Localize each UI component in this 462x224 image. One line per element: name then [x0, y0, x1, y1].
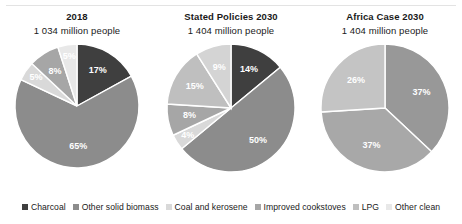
- legend-label: Coal and kerosene: [175, 202, 248, 212]
- pie-panel-1: 20181 034 million people17%65%5%8%5%: [0, 10, 154, 192]
- legend-item[interactable]: Other clean: [386, 202, 440, 212]
- pie-graphic: 37%37%26%: [319, 42, 451, 174]
- pie-subtitle: 1 404 million people: [342, 24, 429, 37]
- slice-value-label: 65%: [69, 141, 87, 151]
- legend-swatch-icon: [353, 204, 359, 210]
- legend-item[interactable]: Other solid biomass: [73, 202, 159, 212]
- pie-title: Stated Policies 2030: [184, 10, 277, 23]
- top-divider: [6, 5, 456, 6]
- pie-graphic: 17%65%5%8%5%: [13, 42, 141, 170]
- slice-value-label: 8%: [49, 66, 62, 76]
- slice-value-label: 8%: [183, 110, 196, 120]
- slice-value-label: 37%: [412, 87, 430, 97]
- legend-item[interactable]: Coal and kerosene: [166, 202, 248, 212]
- legend-swatch-icon: [386, 204, 392, 210]
- legend-label: Other clean: [395, 202, 440, 212]
- legend-item[interactable]: LPG: [353, 202, 379, 212]
- pie-subtitle: 1 034 million people: [34, 24, 121, 37]
- slice-value-label: 9%: [213, 62, 226, 72]
- legend-swatch-icon: [22, 204, 28, 210]
- slice-value-label: 4%: [181, 130, 194, 140]
- chart-legend: CharcoalOther solid biomassCoal and kero…: [0, 202, 462, 212]
- legend-swatch-icon: [73, 204, 79, 210]
- legend-label: LPG: [362, 202, 379, 212]
- slice-value-label: 37%: [363, 140, 381, 150]
- pie-title: 2018: [66, 10, 88, 23]
- slice-value-label: 17%: [89, 65, 107, 75]
- legend-label: Charcoal: [31, 202, 66, 212]
- slice-value-label: 5%: [29, 72, 42, 82]
- slice-value-label: 15%: [186, 81, 204, 91]
- legend-swatch-icon: [166, 204, 172, 210]
- legend-label: Improved cookstoves: [264, 202, 346, 212]
- pie-graphic: 14%50%4%8%15%9%: [165, 42, 297, 174]
- legend-item[interactable]: Charcoal: [22, 202, 66, 212]
- legend-item[interactable]: Improved cookstoves: [255, 202, 346, 212]
- pie-title: Africa Case 2030: [346, 10, 424, 23]
- pie-panel-3: Africa Case 20301 404 million people37%3…: [308, 10, 462, 192]
- pie-subtitle: 1 404 million people: [188, 24, 275, 37]
- pie-panel-2: Stated Policies 20301 404 million people…: [154, 10, 308, 192]
- slice-value-label: 5%: [63, 51, 76, 61]
- slice-value-label: 26%: [347, 75, 365, 85]
- pie-chart-panels: 20181 034 million people17%65%5%8%5%Stat…: [0, 10, 462, 192]
- slice-value-label: 50%: [249, 135, 267, 145]
- legend-label: Other solid biomass: [82, 202, 159, 212]
- legend-swatch-icon: [255, 204, 261, 210]
- slice-value-label: 14%: [240, 64, 258, 74]
